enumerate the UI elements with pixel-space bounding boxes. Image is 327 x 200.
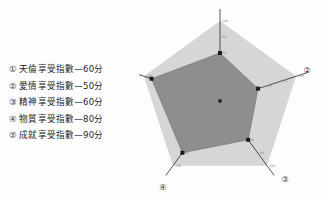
legend-marker-5: ⑤ <box>9 131 17 140</box>
tick-label-a1-80: 80 <box>222 35 226 39</box>
legend-label-4: 物質享受指數—80分 <box>19 112 104 124</box>
center-marker <box>218 99 221 102</box>
tick-label-a3-100: 100 <box>269 164 275 168</box>
legend-label-2: 愛情享受指數—50分 <box>19 79 104 91</box>
legend-label-5: 成就享受指數—90分 <box>19 128 104 140</box>
vertex-marker-4 <box>180 151 184 155</box>
vertex-marker-1 <box>218 51 222 55</box>
legend-label-3: 精神享受指數—60分 <box>19 95 104 107</box>
legend-item-4: ④ 物質享受指數—80分 <box>9 112 121 129</box>
corner-label-4: ④ <box>159 183 166 192</box>
legend-item-5: ⑤ 成就享受指數—90分 <box>9 128 121 145</box>
radar-chart-svg: 2040608010020406080100204060801002040608… <box>139 0 327 200</box>
corner-label-3: ③ <box>282 175 289 184</box>
tick-label-a2-60: 60 <box>268 84 272 88</box>
legend-label-1: 天倫享受指數—60分 <box>19 62 104 74</box>
legend-item-2: ② 愛情享受指數—50分 <box>9 79 121 96</box>
legend-marker-2: ② <box>9 82 17 91</box>
legend-marker-4: ④ <box>9 115 17 124</box>
vertex-marker-3 <box>246 138 250 142</box>
tick-label-a2-80: 80 <box>283 79 287 83</box>
legend-item-1: ① 天倫享受指數—60分 <box>9 62 121 79</box>
tick-label-a3-80: 80 <box>260 151 264 155</box>
tick-label-a1-60: 60 <box>222 51 226 55</box>
legend-marker-3: ③ <box>9 98 17 107</box>
radar-chart: 2040608010020406080100204060801002040608… <box>139 0 327 200</box>
radar-chart-page: ① 天倫享受指數—60分 ② 愛情享受指數—50分 ③ 精神享受指數—60分 ④… <box>0 0 327 200</box>
legend-item-3: ③ 精神享受指數—60分 <box>9 95 121 112</box>
vertex-marker-2 <box>256 87 260 91</box>
tick-label-a1-100: 100 <box>222 19 228 23</box>
legend-marker-1: ① <box>9 65 17 74</box>
corner-label-2: ② <box>304 66 311 75</box>
tick-label-a4-100: 100 <box>175 164 181 168</box>
vertex-marker-5 <box>150 77 154 81</box>
legend: ① 天倫享受指數—60分 ② 愛情享受指數—50分 ③ 精神享受指數—60分 ④… <box>9 62 121 145</box>
tick-label-a3-60: 60 <box>250 138 254 142</box>
